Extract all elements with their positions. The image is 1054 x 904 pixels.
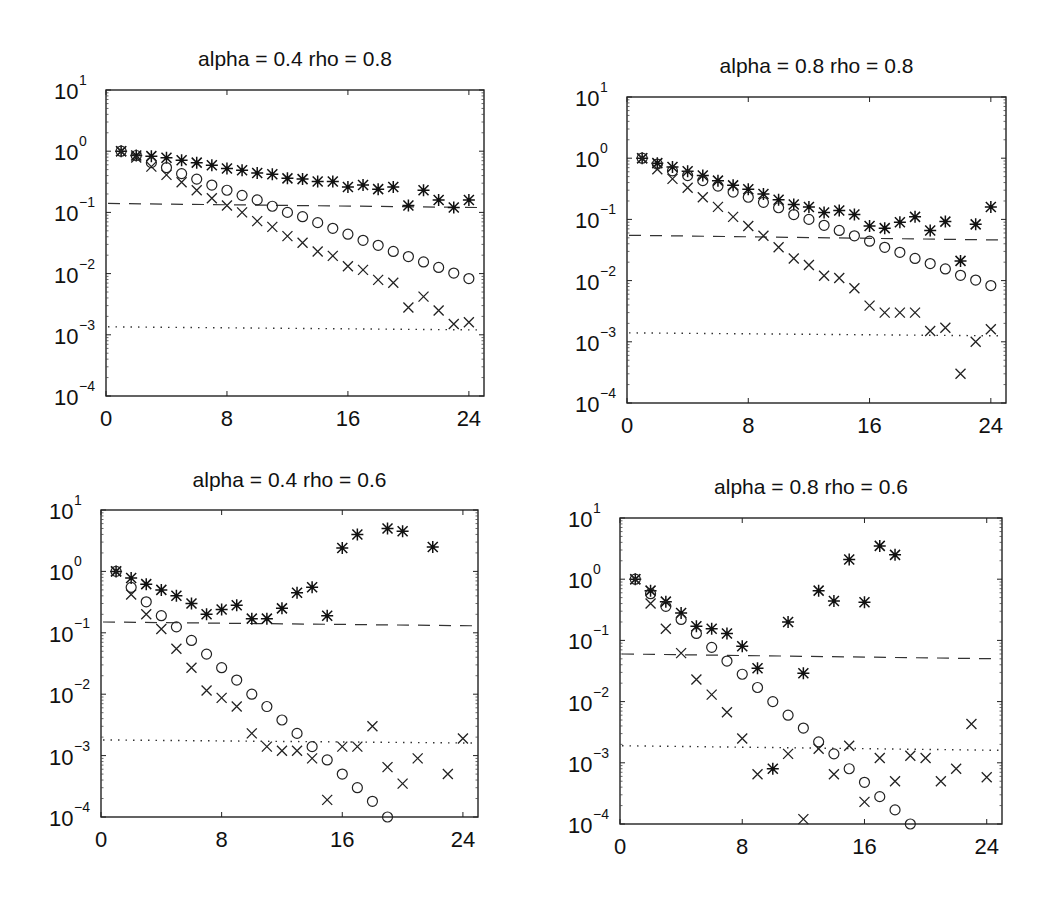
y-tick-exponent: −1 — [79, 194, 95, 210]
series-circle — [111, 566, 392, 822]
dotted-reference-line — [103, 740, 476, 743]
y-tick-exponent: −2 — [600, 263, 616, 279]
cross-marker — [352, 742, 362, 752]
circle-marker — [156, 611, 166, 621]
cross-marker — [398, 779, 408, 789]
circle-marker — [307, 742, 317, 752]
cross-marker — [247, 728, 257, 738]
cross-marker — [252, 216, 262, 226]
cross-marker — [905, 751, 915, 761]
circle-marker — [880, 242, 890, 252]
panel-3: alpha = 0.4 rho = 0.610110010−110−210−31… — [49, 468, 478, 852]
cross-marker — [895, 308, 905, 318]
circle-marker — [222, 185, 232, 195]
cross-marker — [192, 185, 202, 195]
cross-marker — [383, 762, 393, 772]
y-tick-label: 10 — [54, 201, 78, 226]
circle-marker — [925, 259, 935, 269]
circle-marker — [232, 675, 242, 685]
cross-marker — [951, 764, 961, 774]
cross-marker — [298, 238, 308, 248]
cross-marker — [373, 275, 383, 285]
panel-title: alpha = 0.8 rho = 0.6 — [714, 475, 908, 498]
cross-marker — [403, 302, 413, 312]
y-tick-label: 10 — [54, 324, 78, 349]
x-tick-label: 0 — [614, 834, 626, 859]
circle-marker — [267, 201, 277, 211]
cross-marker — [829, 769, 839, 779]
cross-marker — [434, 305, 444, 315]
cross-marker — [956, 369, 966, 379]
cross-marker — [217, 693, 227, 703]
cross-marker — [232, 702, 242, 712]
circle-marker — [971, 275, 981, 285]
cross-marker — [982, 772, 992, 782]
series-star — [115, 145, 475, 213]
y-tick-exponent: 0 — [593, 561, 601, 577]
circle-marker — [141, 597, 151, 607]
cross-marker — [292, 746, 302, 756]
circle-marker — [844, 764, 854, 774]
cross-marker — [126, 590, 136, 600]
dashed-reference-line — [103, 622, 476, 626]
y-tick-label: 10 — [575, 270, 599, 295]
cross-marker — [713, 202, 723, 212]
circle-marker — [895, 247, 905, 257]
cross-marker — [358, 265, 368, 275]
circle-marker — [434, 262, 444, 272]
y-tick-label: 10 — [54, 140, 78, 165]
cross-marker — [844, 741, 854, 751]
circle-marker — [282, 207, 292, 217]
panel-1: alpha = 0.4 rho = 0.810110010−110−210−31… — [54, 47, 484, 431]
cross-marker — [865, 301, 875, 311]
circle-marker — [352, 783, 362, 793]
cross-marker — [207, 193, 217, 203]
cross-marker — [940, 323, 950, 333]
x-tick-label: 16 — [330, 827, 354, 852]
cross-marker — [458, 733, 468, 743]
cross-marker — [388, 278, 398, 288]
y-tick-exponent: −4 — [79, 378, 95, 394]
circle-marker — [768, 697, 778, 707]
dotted-reference-line — [629, 333, 1004, 336]
y-tick-label: 10 — [49, 560, 73, 585]
x-tick-label: 0 — [621, 413, 633, 438]
circle-marker — [313, 218, 323, 228]
y-tick-exponent: 1 — [74, 492, 82, 508]
y-tick-label: 10 — [49, 683, 73, 708]
series-star — [636, 152, 997, 267]
cross-marker — [890, 776, 900, 786]
cross-marker — [753, 769, 763, 779]
cross-marker — [156, 624, 166, 634]
cross-marker — [707, 690, 717, 700]
panel-2: alpha = 0.8 rho = 0.810110010−110−210−31… — [575, 54, 1006, 438]
cross-marker — [343, 261, 353, 271]
cross-marker — [737, 733, 747, 743]
y-tick-exponent: −4 — [593, 806, 609, 822]
dashed-reference-line — [629, 235, 1004, 240]
cross-marker — [698, 192, 708, 202]
circle-marker — [252, 195, 262, 205]
cross-marker — [849, 283, 859, 293]
cross-marker — [186, 663, 196, 673]
y-tick-exponent: 1 — [593, 500, 601, 516]
circle-marker — [328, 223, 338, 233]
circle-marker — [171, 622, 181, 632]
x-tick-label: 24 — [451, 827, 475, 852]
cross-marker — [798, 814, 808, 824]
panel-title: alpha = 0.4 rho = 0.8 — [198, 47, 392, 70]
cross-marker — [443, 769, 453, 779]
cross-marker — [267, 222, 277, 232]
cross-marker — [237, 207, 247, 217]
cross-marker — [282, 231, 292, 241]
cross-marker — [222, 200, 232, 210]
cross-marker — [419, 292, 429, 302]
y-tick-label: 10 — [54, 263, 78, 288]
series-cross — [630, 574, 991, 824]
cross-marker — [328, 251, 338, 261]
y-tick-label: 10 — [49, 745, 73, 770]
cross-marker — [676, 648, 686, 658]
cross-marker — [161, 170, 171, 180]
y-tick-label: 10 — [49, 499, 73, 524]
x-tick-label: 0 — [100, 406, 112, 431]
